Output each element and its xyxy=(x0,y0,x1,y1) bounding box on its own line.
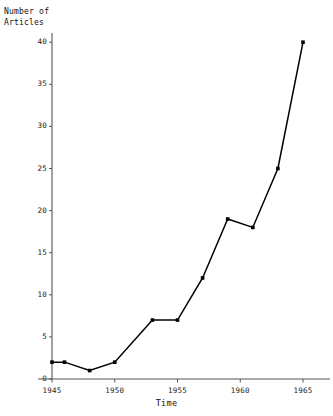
plot-area xyxy=(0,0,333,416)
data-point-marker xyxy=(88,369,92,373)
x-axis-title: Time xyxy=(0,398,333,408)
axes xyxy=(38,33,330,379)
data-point-marker xyxy=(226,217,230,221)
data-point-marker xyxy=(251,226,255,230)
data-point-marker xyxy=(50,360,54,364)
data-point-marker xyxy=(113,360,117,364)
data-point-marker xyxy=(301,40,305,44)
data-point-marker xyxy=(63,360,67,364)
data-point-markers xyxy=(50,40,305,372)
data-point-marker xyxy=(176,318,180,322)
line-chart: Number ofArticles 0510152025303540 19451… xyxy=(0,0,333,416)
data-point-marker xyxy=(201,276,205,280)
data-point-marker xyxy=(276,167,280,171)
data-point-marker xyxy=(151,318,155,322)
